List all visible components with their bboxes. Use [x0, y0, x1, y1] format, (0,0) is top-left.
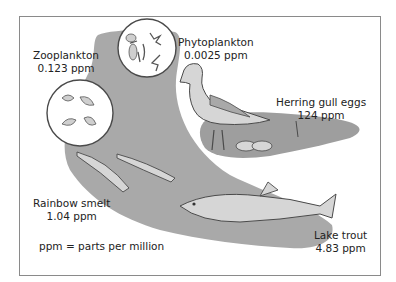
ppm-legend: ppm = parts per million [39, 240, 164, 253]
phytoplankton-value: 0.0025 ppm [178, 49, 254, 62]
rainbow-smelt-label: Rainbow smelt 1.04 ppm [33, 197, 110, 222]
herring-gull-eggs-label: Herring gull eggs 124 ppm [276, 96, 366, 121]
zooplankton-name: Zooplankton [33, 49, 99, 62]
rainbow-smelt-name: Rainbow smelt [33, 197, 110, 210]
lake-trout-value: 4.83 ppm [314, 242, 367, 255]
phytoplankton-name: Phytoplankton [178, 36, 254, 49]
rainbow-smelt-value: 1.04 ppm [33, 210, 110, 223]
lake-trout-label: Lake trout 4.83 ppm [314, 229, 367, 254]
zooplankton-circle [47, 80, 113, 146]
herring-gull-eggs-value: 124 ppm [276, 109, 366, 122]
phytoplankton-circle [118, 19, 176, 77]
zooplankton-value: 0.123 ppm [33, 62, 99, 75]
lake-trout-name: Lake trout [314, 229, 367, 242]
zooplankton-label: Zooplankton 0.123 ppm [33, 49, 99, 74]
herring-gull-eggs-name: Herring gull eggs [276, 96, 366, 109]
phytoplankton-label: Phytoplankton 0.0025 ppm [178, 36, 254, 61]
